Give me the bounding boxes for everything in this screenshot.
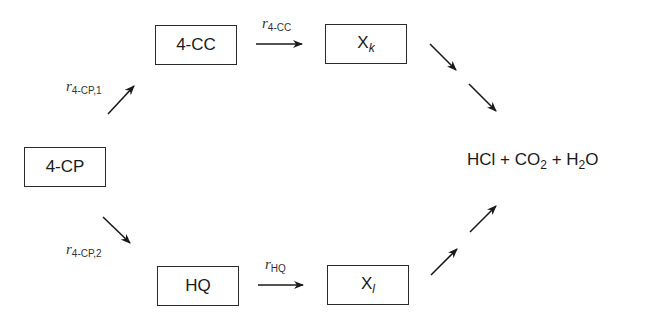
rate-hq: rHQ <box>265 256 286 274</box>
node-xl-label: Xl <box>361 274 375 296</box>
products-label: HCl + CO2 + H2O <box>467 150 598 172</box>
node-xl: Xl <box>327 265 409 305</box>
node-xk: Xk <box>325 24 407 64</box>
node-4cc: 4-CC <box>155 25 237 65</box>
arrow-4cp-to-4cc <box>108 86 134 114</box>
node-hq-label: HQ <box>185 276 211 296</box>
node-4cp-label: 4-CP <box>46 157 85 177</box>
arrow-xl-to-products-1 <box>431 249 457 275</box>
node-4cc-label: 4-CC <box>176 35 216 55</box>
rate-4cp-1: r4-CP,1 <box>66 78 102 96</box>
arrow-xl-to-products-2 <box>470 206 496 232</box>
node-xk-label: Xk <box>357 33 374 55</box>
arrow-xk-to-products-2 <box>469 84 496 111</box>
node-hq: HQ <box>157 266 239 306</box>
rate-4cp-2: r4-CP,2 <box>66 241 102 259</box>
arrow-4cp-to-hq <box>103 217 130 243</box>
node-4cp: 4-CP <box>24 147 106 187</box>
rate-4cc: r4-CC <box>262 15 291 33</box>
arrow-xk-to-products-1 <box>430 44 456 70</box>
